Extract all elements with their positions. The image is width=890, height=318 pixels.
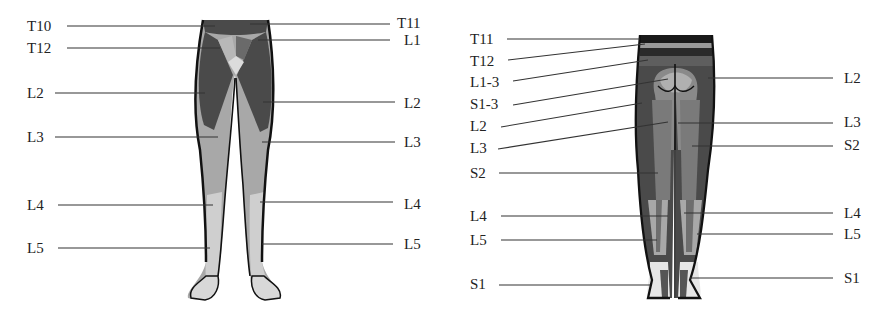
dermatome-label-t11: T11 bbox=[470, 32, 494, 47]
dermatome-label-t11: T11 bbox=[397, 16, 421, 31]
dermatome-label-t10: T10 bbox=[27, 19, 51, 34]
leader-lines bbox=[55, 24, 833, 285]
dermatome-label-l2: L2 bbox=[27, 86, 44, 101]
dermatome-label-l1: L1 bbox=[404, 33, 421, 48]
dermatome-label-s1: S1 bbox=[844, 271, 860, 286]
dermatome-label-s2: S2 bbox=[470, 166, 486, 181]
dermatome-label-t12: T12 bbox=[470, 54, 494, 69]
dermatome-label-s1-3: S1-3 bbox=[470, 97, 498, 112]
dermatome-label-l5: L5 bbox=[470, 233, 487, 248]
dermatome-label-l4: L4 bbox=[470, 209, 487, 224]
dermatome-label-l2: L2 bbox=[470, 119, 487, 134]
dermatome-label-s1: S1 bbox=[470, 277, 486, 292]
dermatome-label-l5: L5 bbox=[844, 227, 861, 242]
dermatome-label-l5: L5 bbox=[27, 241, 44, 256]
dermatome-label-l4: L4 bbox=[27, 198, 44, 213]
leader-line bbox=[513, 60, 648, 81]
dermatome-label-l2: L2 bbox=[404, 96, 421, 111]
dermatome-label-s2: S2 bbox=[844, 138, 860, 153]
front-view-figure bbox=[188, 20, 281, 300]
leader-line bbox=[508, 44, 645, 60]
leader-line bbox=[501, 103, 642, 127]
dermatome-label-l3: L3 bbox=[844, 115, 861, 130]
back-view-figure bbox=[636, 35, 714, 298]
dermatome-diagram: T10T12L2L3L4L5T11L1L2L3L4L5T11T12L1-3S1-… bbox=[0, 0, 890, 318]
dermatome-label-l1-3: L1-3 bbox=[470, 75, 499, 90]
dermatome-label-l4: L4 bbox=[404, 197, 421, 212]
dermatome-label-l3: L3 bbox=[27, 130, 44, 145]
dermatome-label-l3: L3 bbox=[404, 135, 421, 150]
dermatome-label-l2: L2 bbox=[844, 71, 861, 86]
dermatome-label-l3: L3 bbox=[470, 141, 487, 156]
dermatome-label-l4: L4 bbox=[844, 206, 861, 221]
dermatome-label-l5: L5 bbox=[404, 237, 421, 252]
legs-illustration bbox=[0, 0, 890, 318]
dermatome-label-t12: T12 bbox=[27, 41, 51, 56]
